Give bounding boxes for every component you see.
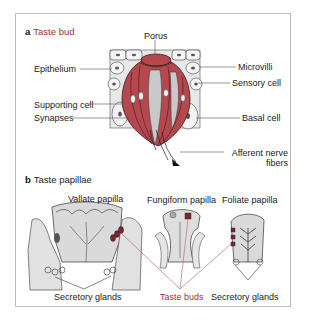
- afferent-line-2: fibers: [266, 158, 288, 168]
- label-fungiform-papilla: Fungiform papilla: [147, 195, 216, 205]
- label-epithelium: Epithelium: [34, 64, 76, 74]
- label-foliate-papilla: Foliate papilla: [222, 195, 278, 205]
- label-taste-buds: Taste buds: [160, 292, 204, 302]
- afferent-line-1: Afferent nerve: [232, 148, 288, 158]
- vallate-papilla-drawing: [28, 202, 142, 290]
- foliate-papilla-drawing: [231, 214, 264, 280]
- panel-b-title: bTaste papillae: [25, 174, 92, 185]
- panel-a-letter: a: [25, 26, 30, 37]
- label-secretory-glands-right: Secretory glands: [211, 292, 279, 302]
- label-porus: Porus: [144, 31, 168, 41]
- label-synapses: Synapses: [34, 113, 74, 123]
- label-supporting-cell: Supporting cell: [34, 100, 94, 110]
- fungiform-papilla-drawing: [155, 210, 205, 268]
- panel-a-title: aTaste bud: [25, 26, 75, 37]
- label-afferent-nerve-fibers: Afferent nerve fibers: [226, 148, 288, 168]
- label-sensory-cell: Sensory cell: [232, 78, 281, 88]
- label-basal-cell: Basal cell: [242, 113, 281, 123]
- label-vallate-papilla: Vallate papilla: [68, 194, 123, 204]
- panel-a-title-text: Taste bud: [33, 26, 74, 37]
- label-microvilli: Microvilli: [238, 62, 273, 72]
- panel-b-title-text: Taste papillae: [34, 174, 92, 185]
- label-secretory-glands-left: Secretory glands: [54, 292, 122, 302]
- panel-b-letter: b: [25, 174, 31, 185]
